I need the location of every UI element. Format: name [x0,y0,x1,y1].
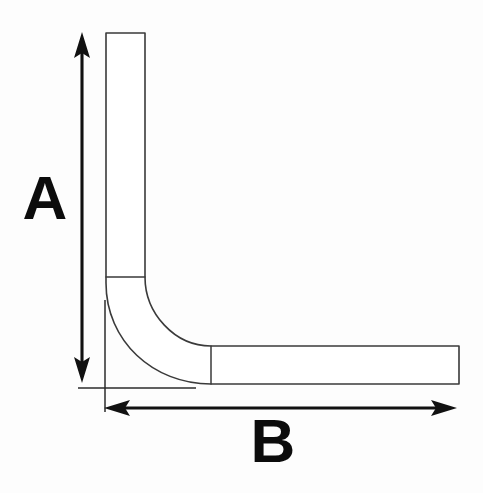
dimension-label-b: B [251,406,296,475]
pipe-elbow-body-outline [106,33,459,384]
dimension-a-arrow [74,32,90,383]
dimension-label-a: A [23,163,68,232]
diagram-canvas: A B [0,0,483,493]
pipe-elbow-diagram: A B [0,0,483,493]
